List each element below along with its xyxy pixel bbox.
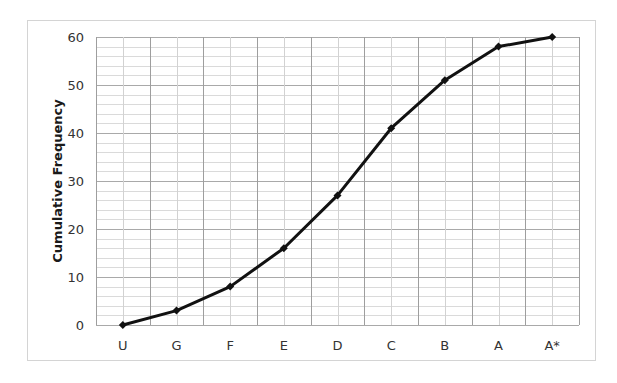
y-tick-label: 40 (67, 126, 84, 141)
x-tick-label: G (171, 338, 181, 353)
x-tick-label: A (494, 338, 503, 353)
x-tick-label: A* (544, 338, 560, 353)
x-axis-ticks: UGFEDCBAA* (118, 338, 560, 353)
y-axis-ticks: 0102030405060 (67, 30, 84, 333)
x-tick-label: F (226, 338, 233, 353)
y-tick-label: 30 (67, 174, 84, 189)
y-tick-label: 60 (67, 30, 84, 45)
y-tick-label: 10 (67, 270, 84, 285)
x-tick-label: D (332, 338, 342, 353)
y-tick-label: 20 (67, 222, 84, 237)
data-point-marker (119, 321, 127, 329)
y-axis-title: Cumulative Frequency (50, 99, 65, 263)
y-tick-label: 0 (76, 318, 84, 333)
y-tick-label: 50 (67, 78, 84, 93)
x-tick-label: U (118, 338, 128, 353)
x-tick-label: B (440, 338, 449, 353)
cumulative-frequency-chart: 0102030405060 UGFEDCBAA* Cumulative Freq… (0, 0, 617, 383)
data-point-marker (548, 33, 556, 41)
grid (96, 37, 580, 326)
x-tick-label: C (387, 338, 396, 353)
x-tick-label: E (280, 338, 288, 353)
